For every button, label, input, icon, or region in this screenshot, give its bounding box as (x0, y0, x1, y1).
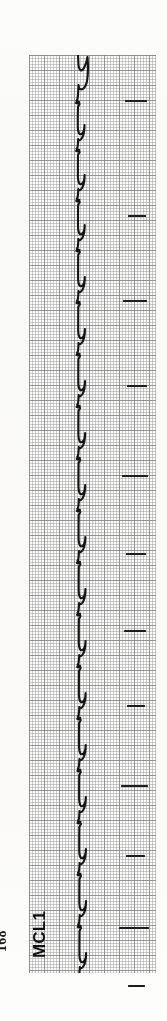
ecg-grid-paper (29, 55, 156, 973)
time-tick-mark (123, 300, 147, 302)
time-tick-mark (127, 705, 145, 707)
lead-label-mcl1: MCL1 (30, 911, 50, 958)
time-tick-mark (126, 855, 145, 857)
time-tick-mark (127, 385, 147, 387)
page-number: 168 (0, 906, 10, 952)
time-tick-mark (124, 630, 146, 632)
time-tick-mark (119, 927, 149, 929)
time-tick-mark (122, 475, 148, 477)
time-tick-mark (128, 215, 146, 217)
time-tick-mark (126, 553, 146, 555)
time-tick-mark (125, 100, 147, 102)
time-tick-mark (128, 985, 145, 987)
ecg-page: 168 MCL1 (0, 0, 167, 1021)
time-tick-mark (121, 785, 148, 787)
